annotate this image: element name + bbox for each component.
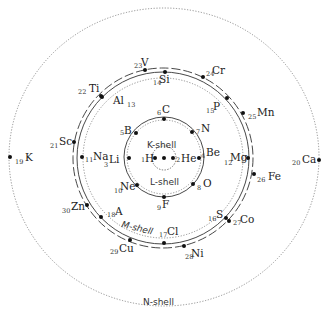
k-shell-label: K-shell — [147, 140, 176, 150]
element-mn: 25 Mn — [241, 106, 275, 121]
element-cr: 24 Cr — [201, 64, 226, 79]
element-co: 27 Co — [227, 213, 254, 227]
svg-text:6: 6 — [157, 109, 161, 117]
element-ne: 10 Ne — [114, 180, 139, 195]
element-a: 18 A — [99, 205, 123, 219]
svg-text:B: B — [124, 124, 132, 136]
svg-text:N: N — [201, 122, 210, 134]
element-v: 23 V — [134, 56, 149, 72]
svg-text:30: 30 — [62, 207, 70, 215]
svg-text:Al: Al — [112, 94, 125, 106]
element-h: 1 H — [141, 152, 157, 164]
element-s: 16 S — [208, 208, 228, 223]
element-b: 5 B — [120, 124, 138, 137]
element-be: 4 Be — [197, 146, 220, 160]
svg-text:Ti: Ti — [89, 82, 100, 94]
svg-text:Na: Na — [93, 150, 108, 162]
n-shell-label: N-shell — [143, 297, 174, 307]
element-ca: 20 Ca — [292, 153, 321, 167]
svg-text:Li: Li — [109, 153, 120, 165]
element-ni: 28 Ni — [182, 244, 204, 261]
svg-text:Ne: Ne — [120, 180, 135, 192]
svg-text:19: 19 — [15, 158, 23, 166]
svg-text:20: 20 — [292, 159, 300, 167]
svg-text:Mn: Mn — [257, 106, 275, 118]
element-o: 8 O — [191, 177, 212, 192]
svg-text:Cr: Cr — [212, 64, 226, 76]
svg-text:8: 8 — [197, 184, 201, 192]
svg-text:Mg: Mg — [230, 151, 248, 163]
svg-text:21: 21 — [50, 142, 58, 150]
element-mg: 12 Mg — [224, 151, 250, 167]
svg-text:13: 13 — [127, 101, 135, 109]
element-c: 6 C — [157, 103, 170, 121]
element-f: 9 F — [157, 195, 169, 212]
svg-text:Be: Be — [206, 146, 220, 158]
element-na: 11 Na — [80, 150, 108, 164]
svg-text:C: C — [162, 103, 170, 115]
nucleus — [162, 156, 166, 160]
svg-text:3: 3 — [104, 161, 108, 169]
svg-text:K: K — [25, 151, 33, 163]
element-al: Al 13 — [100, 94, 135, 109]
element-zn: 30 Zn — [62, 200, 89, 215]
svg-text:F: F — [162, 198, 169, 210]
svg-text:Si: Si — [159, 73, 170, 85]
svg-text:Sc: Sc — [59, 135, 72, 147]
svg-text:7: 7 — [196, 128, 200, 136]
element-ti: 22 Ti — [78, 82, 103, 98]
svg-text:V: V — [140, 56, 149, 68]
l-shell-label: L-shell — [150, 177, 179, 187]
svg-text:Ni: Ni — [191, 247, 204, 259]
svg-text:Zn: Zn — [71, 200, 85, 212]
element-fe: 26 Fe — [252, 170, 281, 184]
svg-text:Co: Co — [240, 213, 254, 225]
svg-text:S: S — [216, 208, 223, 220]
element-he: 2 He — [171, 152, 196, 164]
element-k: 19 K — [8, 151, 33, 166]
svg-text:4: 4 — [201, 152, 205, 160]
svg-text:Ca: Ca — [302, 153, 316, 165]
svg-text:22: 22 — [78, 88, 86, 96]
element-p: 15 P — [206, 96, 229, 115]
element-cu: 29 Cu — [110, 238, 134, 256]
svg-text:29: 29 — [110, 248, 118, 256]
svg-text:25: 25 — [248, 113, 256, 121]
electron-shell-diagram: K-shell L-shell M-shell N-shell 1 H 2 He… — [0, 0, 323, 314]
svg-text:A: A — [114, 205, 123, 217]
svg-text:9: 9 — [157, 204, 161, 212]
svg-text:Fe: Fe — [268, 170, 281, 182]
svg-text:2: 2 — [176, 156, 180, 164]
svg-text:P: P — [213, 100, 220, 112]
svg-text:H: H — [145, 152, 154, 164]
element-sc: 21 Sc — [50, 135, 76, 150]
svg-text:He: He — [181, 152, 196, 164]
svg-text:26: 26 — [257, 176, 265, 184]
svg-text:O: O — [203, 177, 212, 189]
element-cl: 17 Cl — [159, 225, 179, 245]
svg-text:Cu: Cu — [119, 242, 134, 254]
svg-text:Cl: Cl — [167, 225, 179, 237]
